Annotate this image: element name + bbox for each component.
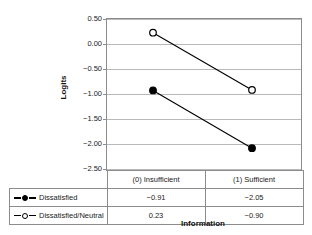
y-tick-label: −1.50 [68,115,102,123]
y-tick-label: 0.50 [68,15,102,23]
table-header-blank [10,171,108,189]
data-point-open [150,29,157,36]
chart-figure: Logits 0.50 0.00 −0.50 −1.00 −1.50 −2.00… [0,0,312,235]
filled-circle-marker-icon [14,193,36,202]
y-tick-label: −2.00 [68,140,102,148]
table-cell: −2.05 [205,189,303,207]
table-cell: −0.91 [107,189,205,207]
data-point-open [249,87,256,94]
table-header-category: (0) Insufficient [107,171,205,189]
legend-label: Dissatisfied/Neutral [39,211,104,220]
legend-item-dissatisfied-neutral: Dissatisfied/Neutral [10,207,108,225]
series-plot [107,19,301,171]
table-header-row: (0) Insufficient (1) Sufficient [10,171,304,189]
table-header-category: (1) Sufficient [205,171,303,189]
y-axis-title-text: Logits [59,75,68,99]
y-tick-label: 0.00 [68,40,102,48]
data-point-filled [249,145,256,152]
data-table: (0) Insufficient (1) Sufficient Dissatis… [9,170,304,225]
y-tick-label: −0.50 [68,65,102,73]
legend-item-dissatisfied: Dissatisfied [10,189,108,207]
y-tick-label: −1.00 [68,90,102,98]
legend-label: Dissatisfied [39,193,77,202]
series-line-filled [153,90,252,148]
series-dissatisfied [150,87,256,151]
table-row: Dissatisfied −0.91 −2.05 [10,189,304,207]
data-point-filled [150,87,157,94]
series-dissatisfied-neutral [150,29,256,93]
open-circle-marker-icon [14,211,36,220]
x-axis-title: Information [106,219,300,228]
plot-area [106,18,302,171]
series-line-open [153,33,252,90]
